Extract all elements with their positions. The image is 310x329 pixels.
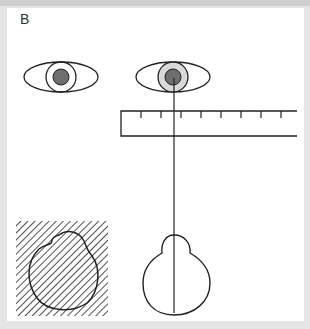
hatched-head-outline-icon [16, 221, 108, 316]
figure-panel: B [7, 8, 304, 321]
left-eye-icon [24, 62, 98, 92]
right-eye-icon [136, 62, 210, 92]
cropped-caption-strip [0, 0, 310, 6]
head-outline-icon [143, 235, 210, 315]
ruler-icon [121, 111, 297, 136]
diagram-canvas [7, 8, 304, 321]
